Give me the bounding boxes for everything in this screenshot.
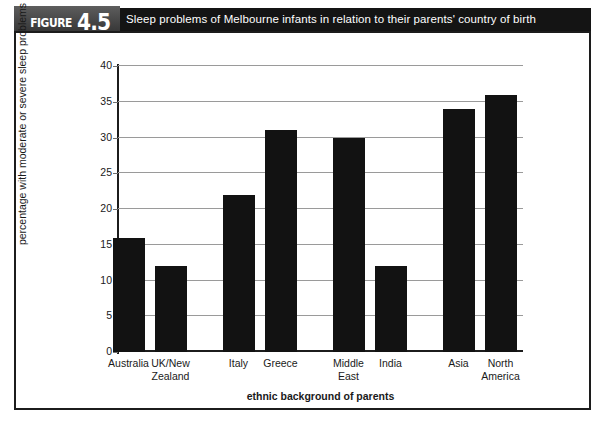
bar — [375, 266, 407, 352]
plot-area — [118, 66, 523, 352]
figure-word-label: FIGURE — [31, 16, 73, 29]
bar — [443, 109, 475, 352]
bar — [265, 130, 297, 352]
gridline — [118, 65, 523, 66]
figure-title: Sleep problems of Melbourne infants in r… — [126, 8, 536, 31]
x-tick-label-line: America — [461, 370, 541, 383]
x-tick-label-line: North — [461, 357, 541, 370]
figure-container: FIGURE 4.5 Sleep problems of Melbourne i… — [0, 0, 605, 422]
bar — [113, 238, 145, 352]
gridline — [118, 101, 523, 102]
bar — [223, 195, 255, 352]
bar — [333, 138, 365, 353]
x-tick-label: NorthAmerica — [461, 357, 541, 382]
bar — [155, 266, 187, 352]
bar — [485, 95, 517, 352]
x-tick-label-line: East — [309, 370, 389, 383]
y-axis-title: percentage with moderate or severe sleep… — [16, 0, 28, 254]
x-axis-title: ethnic background of parents — [118, 390, 523, 402]
x-tick-label-line: Zealand — [131, 370, 211, 383]
